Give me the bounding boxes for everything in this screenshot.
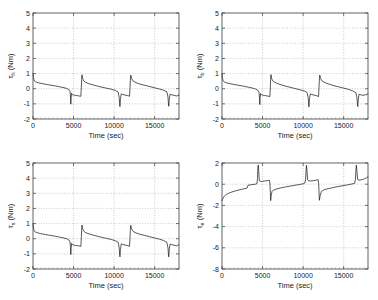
- x-tick-label: 0: [31, 122, 35, 129]
- y-tick-label: 1: [26, 220, 30, 227]
- y-tick-label: -6: [213, 244, 219, 251]
- y-tick-label: -4: [213, 223, 219, 230]
- y-axis-title: τs (Nm): [6, 203, 16, 228]
- plot-svg-tau-e: 050001000015000-8-6-4-202Time (sec)τe (N…: [189, 150, 378, 300]
- axes-frame: [222, 13, 368, 119]
- y-tick-label: 4: [215, 25, 219, 32]
- plot-svg-tau-s: 050001000015000-2-1012345Time (sec)τs (N…: [0, 150, 189, 300]
- y-tick-label: 5: [26, 160, 30, 167]
- y-tick-label: 1: [215, 70, 219, 77]
- y-tick-label: 0: [215, 181, 219, 188]
- y-tick-label: 1: [26, 70, 30, 77]
- x-axis-title: Time (sec): [88, 131, 124, 140]
- x-tick-label: 5000: [255, 272, 271, 279]
- y-tick-label: 0: [26, 235, 30, 242]
- x-tick-label: 5000: [66, 122, 82, 129]
- x-tick-label: 5000: [255, 122, 271, 129]
- y-tick-label: 5: [215, 10, 219, 17]
- y-tick-label: 3: [215, 40, 219, 47]
- plot-svg-tau-b: 050001000015000-2-1012345Time (sec)τb (N…: [189, 0, 378, 150]
- y-tick-label: -2: [213, 116, 219, 123]
- y-tick-label: 3: [26, 40, 30, 47]
- y-tick-label: 2: [26, 205, 30, 212]
- axes-frame: [222, 163, 368, 269]
- y-tick-label: 2: [215, 55, 219, 62]
- x-tick-label: 10000: [293, 272, 313, 279]
- y-axis-title: τb (Nm): [195, 53, 205, 78]
- x-tick-label: 0: [220, 272, 224, 279]
- x-tick-label: 15000: [334, 122, 354, 129]
- x-axis-title: Time (sec): [88, 281, 124, 290]
- y-tick-label: 3: [26, 190, 30, 197]
- y-tick-label: 0: [26, 85, 30, 92]
- y-tick-label: -1: [24, 100, 30, 107]
- x-tick-label: 10000: [104, 272, 124, 279]
- y-tick-label: 4: [26, 175, 30, 182]
- data-series-line: [33, 224, 179, 257]
- x-axis-title: Time (sec): [277, 131, 313, 140]
- y-axis-title: τe (Nm): [195, 203, 205, 228]
- y-tick-label: 0: [215, 85, 219, 92]
- data-series-line: [33, 74, 179, 107]
- y-tick-label: -2: [213, 202, 219, 209]
- plot-panel-tau-e: 050001000015000-8-6-4-202Time (sec)τe (N…: [189, 150, 378, 300]
- y-tick-label: -2: [24, 266, 30, 273]
- x-tick-label: 10000: [293, 122, 313, 129]
- x-tick-label: 15000: [145, 122, 165, 129]
- y-tick-label: -1: [213, 100, 219, 107]
- x-tick-label: 10000: [104, 122, 124, 129]
- x-tick-label: 15000: [145, 272, 165, 279]
- y-tick-label: -8: [213, 266, 219, 273]
- axes-frame: [33, 13, 179, 119]
- y-tick-label: 5: [26, 10, 30, 17]
- y-tick-label: -2: [24, 116, 30, 123]
- x-tick-label: 0: [220, 122, 224, 129]
- plot-panel-tau-b: 050001000015000-2-1012345Time (sec)τb (N…: [189, 0, 378, 150]
- data-series-line: [222, 74, 368, 107]
- x-axis-title: Time (sec): [277, 281, 313, 290]
- plot-panel-tau-h: 050001000015000-2-1012345Time (sec)τh (N…: [0, 0, 189, 150]
- y-tick-label: 2: [26, 55, 30, 62]
- y-tick-label: 4: [26, 25, 30, 32]
- plot-svg-tau-h: 050001000015000-2-1012345Time (sec)τh (N…: [0, 0, 189, 150]
- plot-panel-tau-s: 050001000015000-2-1012345Time (sec)τs (N…: [0, 150, 189, 300]
- axes-frame: [33, 163, 179, 269]
- x-tick-label: 0: [31, 272, 35, 279]
- data-series-line: [222, 165, 368, 201]
- x-tick-label: 5000: [66, 272, 82, 279]
- x-tick-label: 15000: [334, 272, 354, 279]
- figure-container: 050001000015000-2-1012345Time (sec)τh (N…: [0, 0, 378, 300]
- y-axis-title: τh (Nm): [6, 53, 16, 78]
- y-tick-label: -1: [24, 250, 30, 257]
- y-tick-label: 2: [215, 160, 219, 167]
